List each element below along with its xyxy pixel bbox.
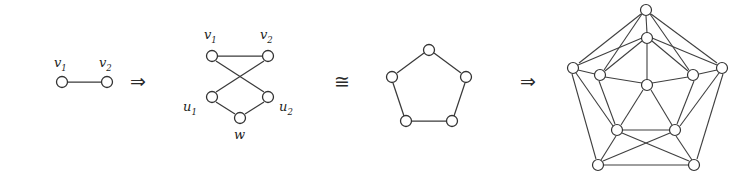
vertex-v2 <box>102 77 113 88</box>
implies-operator-2: ⇒ <box>520 72 536 91</box>
vertex-i4 <box>595 70 606 81</box>
label-v2-g2: v2 <box>260 28 273 44</box>
vertex-p4 <box>387 72 398 83</box>
edge-o2-i3 <box>622 133 689 161</box>
edge-o4-i3 <box>576 73 613 126</box>
edge-o1-i0 <box>652 38 717 65</box>
vertex-o0 <box>641 5 652 16</box>
vertex-p0 <box>424 45 435 56</box>
edge-o3-i2 <box>603 133 670 161</box>
label-v1: v1 <box>54 56 67 72</box>
edge-p0-p1 <box>434 53 461 73</box>
vertex-p1 <box>461 72 472 83</box>
five-vertex-bowtie-graph <box>207 51 274 124</box>
vertex-w <box>235 113 246 124</box>
implies-operator-1: ⇒ <box>130 72 146 91</box>
vertex-p2 <box>447 116 458 127</box>
edge-o0-o4 <box>579 14 641 63</box>
vertex-i2 <box>670 125 681 136</box>
edge-p3-p4 <box>393 83 404 116</box>
edge-u1-w <box>216 102 235 114</box>
label-v1-g2: v1 <box>204 28 217 44</box>
edge-c-i2 <box>651 90 672 125</box>
edge-c-i1 <box>652 77 688 83</box>
label-v2: v2 <box>99 56 112 72</box>
pentagon-cycle-graph <box>387 45 472 127</box>
graph-diagram-svg <box>0 0 751 180</box>
isomorphic-operator: ≅ <box>334 72 350 91</box>
label-u2: u2 <box>279 100 293 116</box>
vertex-v1 <box>57 77 68 88</box>
vertex-u2 <box>263 92 274 103</box>
thirteen-vertex-graph <box>568 5 728 171</box>
edge-o4-i4 <box>578 70 595 74</box>
edge-u2-w <box>245 102 264 114</box>
edge-o0-i1 <box>650 14 689 70</box>
edge-p1-p2 <box>454 83 465 116</box>
edge-o0-i0 <box>646 16 647 33</box>
edge-o0-o1 <box>651 14 717 63</box>
vertex-o3 <box>593 160 604 171</box>
single-edge-graph <box>57 77 113 88</box>
vertex-i3 <box>612 125 623 136</box>
edge-p4-p0 <box>397 53 424 73</box>
vertex-center <box>642 80 653 91</box>
label-w: w <box>234 128 245 141</box>
edge-o1-o2 <box>697 74 723 159</box>
edge-o4-o3 <box>572 74 596 159</box>
edge-o1-i1 <box>699 70 717 74</box>
vertex-i0 <box>642 33 653 44</box>
vertex-o2 <box>689 160 700 171</box>
vertex-i1 <box>688 70 699 81</box>
edge-c-i4 <box>605 77 642 83</box>
vertex-u1 <box>207 92 218 103</box>
vertex-v1 <box>207 51 218 62</box>
edge-c-i3 <box>621 90 643 125</box>
label-u1: u1 <box>183 100 197 116</box>
edge-o1-i2 <box>680 73 719 126</box>
edge-o0-i4 <box>604 14 642 70</box>
vertex-p3 <box>401 116 412 127</box>
vertex-o4 <box>568 63 579 74</box>
vertex-v2 <box>263 51 274 62</box>
vertex-o1 <box>717 63 728 74</box>
edge-i1-i2 <box>677 81 694 124</box>
figure-canvas: v1 v2 v1 v2 u1 u2 w ⇒ ≅ ⇒ <box>0 0 751 180</box>
